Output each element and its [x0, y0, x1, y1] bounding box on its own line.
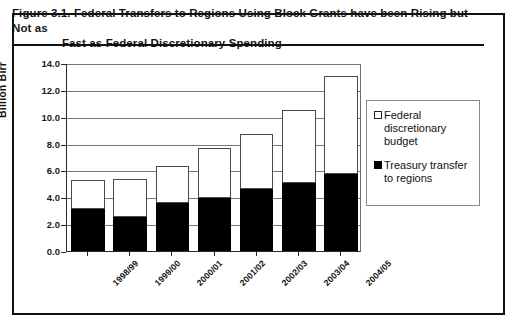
x-axis-tick-label: 2001/02 — [237, 258, 267, 288]
legend-entry: Federal discretionary budget — [374, 109, 473, 148]
stacked-bar — [324, 76, 358, 251]
x-axis-tick-mark — [87, 252, 88, 256]
bar-segment-federal-discretionary-budget — [240, 134, 274, 189]
x-axis-tick-mark — [129, 252, 130, 256]
stacked-bar — [198, 148, 232, 251]
stacked-bar — [156, 166, 190, 251]
gridline — [67, 64, 360, 65]
y-axis-tick-label: 14.0 — [24, 59, 60, 69]
y-axis-tick-label: 8.0 — [24, 140, 60, 150]
x-axis-tick-mark — [340, 252, 341, 256]
gridline — [67, 145, 360, 146]
y-axis-tick-label: 10.0 — [24, 113, 60, 123]
bar-segment-federal-discretionary-budget — [198, 148, 232, 198]
x-axis-tick-mark — [214, 252, 215, 256]
open-square-icon — [374, 111, 382, 119]
x-axis-tick-mark — [256, 252, 257, 256]
y-axis-tick-label: 12.0 — [24, 86, 60, 96]
x-axis-tick-label: 1999/00 — [153, 258, 183, 288]
filled-square-icon — [374, 161, 382, 169]
bar-segment-treasury-transfer-to-regions — [71, 209, 105, 251]
bar-segment-federal-discretionary-budget — [282, 110, 316, 183]
x-axis-tick-mark — [171, 252, 172, 256]
legend-label: Federal discretionary budget — [384, 109, 473, 148]
stacked-bar — [240, 134, 274, 251]
bar-segment-federal-discretionary-budget — [156, 166, 190, 202]
y-axis-label: Billion Birr — [0, 62, 8, 118]
bar-segment-treasury-transfer-to-regions — [324, 174, 358, 251]
gridline — [67, 91, 360, 92]
bar-segment-treasury-transfer-to-regions — [198, 198, 232, 251]
bar-segment-federal-discretionary-budget — [324, 76, 358, 174]
bar-segment-federal-discretionary-budget — [71, 180, 105, 209]
bar-segment-treasury-transfer-to-regions — [240, 189, 274, 251]
x-axis-tick-label: 1998/99 — [111, 258, 141, 288]
bar-segment-federal-discretionary-budget — [113, 179, 147, 217]
y-axis-tick-label: 0.0 — [24, 247, 60, 257]
chart-canvas: Billion Birr 14.012.010.08.06.04.02.00.0… — [0, 0, 493, 302]
bar-segment-treasury-transfer-to-regions — [156, 203, 190, 251]
x-axis-tick-mark — [298, 252, 299, 256]
plot-area — [66, 64, 361, 252]
stacked-bar — [113, 179, 147, 251]
stacked-bar — [282, 110, 316, 251]
legend-entry: Treasury transfer to regions — [374, 159, 473, 185]
chart-legend: Federal discretionary budgetTreasury tra… — [366, 100, 480, 206]
bar-segment-treasury-transfer-to-regions — [113, 217, 147, 251]
x-axis-tick-label: 2003/04 — [321, 258, 351, 288]
stacked-bar — [71, 180, 105, 251]
gridline — [67, 118, 360, 119]
y-axis-tick-label: 4.0 — [24, 193, 60, 203]
x-axis-tick-label: 2002/03 — [279, 258, 309, 288]
y-axis-tick-mark — [61, 252, 66, 253]
x-axis-tick-label: 2004/05 — [363, 258, 393, 288]
y-axis-tick-label: 2.0 — [24, 220, 60, 230]
x-axis-tick-label: 2000/01 — [195, 258, 225, 288]
legend-label: Treasury transfer to regions — [384, 159, 473, 185]
bar-segment-treasury-transfer-to-regions — [282, 183, 316, 251]
y-axis-tick-label: 6.0 — [24, 166, 60, 176]
